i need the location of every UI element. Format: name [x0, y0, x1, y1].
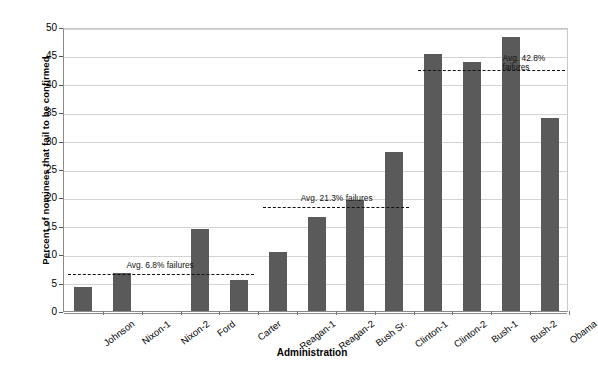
y-tick-mark: [59, 28, 63, 29]
bar: [308, 217, 326, 311]
x-tick-mark: [569, 311, 570, 315]
x-tick-label: Carter: [255, 318, 283, 343]
y-tick-mark: [59, 227, 63, 228]
y-tick-label: 45: [17, 51, 57, 61]
y-tick-mark: [59, 198, 63, 199]
y-tick-mark: [59, 170, 63, 171]
average-label: Avg. 21.3% failures: [301, 194, 373, 204]
y-tick-label: 5: [17, 279, 57, 289]
bar: [463, 62, 481, 311]
x-tick-label: Ford: [215, 318, 237, 339]
y-tick-label: 35: [17, 108, 57, 118]
x-tick-label: Nixon-1: [140, 318, 173, 346]
y-tick-mark: [59, 255, 63, 256]
bar: [541, 118, 559, 311]
y-tick-mark: [59, 85, 63, 86]
x-tick-label: Nixon-2: [179, 318, 212, 346]
bar: [74, 287, 92, 311]
average-label: Avg. 6.8% failures: [126, 261, 193, 271]
y-tick-label: 15: [17, 222, 57, 232]
x-tick-label: Bush Sr.: [374, 318, 409, 348]
plot-area: Avg. 6.8% failuresAvg. 21.3% failuresAvg…: [63, 28, 568, 312]
x-tick-label: Obama: [567, 318, 598, 346]
x-tick-label: Bush-1: [489, 318, 520, 345]
bar: [113, 273, 131, 311]
x-tick-label: Clinton-2: [452, 318, 489, 350]
y-tick-label: 10: [17, 250, 57, 260]
x-axis-title: Administration: [62, 347, 562, 358]
average-line: [263, 207, 410, 208]
y-tick-label: 0: [17, 307, 57, 317]
y-tick-mark: [59, 284, 63, 285]
y-tick-label: 30: [17, 137, 57, 147]
average-label: Avg. 42.8% failures: [503, 54, 546, 73]
bar: [502, 37, 520, 311]
bar: [230, 280, 248, 311]
y-tick-label: 25: [17, 165, 57, 175]
y-tick-mark: [59, 142, 63, 143]
bar: [385, 152, 403, 311]
y-tick-mark: [59, 56, 63, 57]
y-tick-label: 40: [17, 80, 57, 90]
y-tick-mark: [59, 113, 63, 114]
y-tick-label: 20: [17, 193, 57, 203]
average-line: [68, 274, 253, 275]
x-tick-label: Bush-2: [528, 318, 559, 345]
bar: [346, 200, 364, 311]
x-tick-label: Johnson: [102, 318, 137, 348]
x-tick-label: Clinton-1: [413, 318, 450, 350]
y-tick-label: 50: [17, 23, 57, 33]
bar: [269, 252, 287, 311]
x-axis-category-labels: JohnsonNixon-1Nixon-2FordCarterReagan-1R…: [63, 312, 568, 352]
bar: [424, 54, 442, 311]
